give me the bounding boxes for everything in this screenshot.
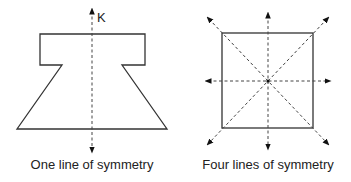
caption-one-line: One line of symmetry	[31, 157, 154, 172]
t-trapezoid-shape	[17, 34, 167, 129]
figure-four-lines-symmetry: Four lines of symmetry	[202, 15, 334, 172]
figure-one-line-symmetry: K One line of symmetry	[17, 10, 167, 172]
caption-four-lines: Four lines of symmetry	[202, 157, 334, 172]
axis-label-k: K	[97, 10, 106, 25]
symmetry-diagram: K One line of symmetry Four lines of sym…	[0, 0, 351, 182]
center-point	[266, 79, 269, 82]
